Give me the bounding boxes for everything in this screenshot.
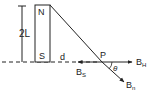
bs-label: BS: [76, 67, 86, 78]
north-pole-label: N: [38, 7, 45, 17]
distance-label: d: [60, 52, 65, 62]
angle-label: θ: [113, 64, 118, 73]
magnet-field-diagram: 2L N S θ d P BH BS Bn: [0, 0, 153, 93]
south-pole-label: S: [39, 51, 45, 61]
point-p-label: P: [100, 50, 106, 60]
bh-label: BH: [136, 57, 146, 68]
line-north-to-p: [50, 5, 102, 62]
dimension-label: 2L: [19, 28, 31, 39]
angle-arc: [109, 62, 112, 69]
bn-label: Bn: [126, 80, 135, 91]
